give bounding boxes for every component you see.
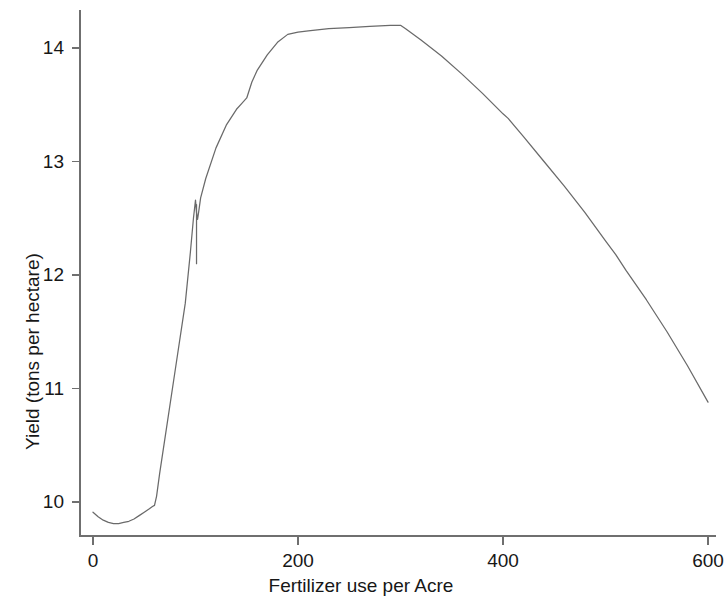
axis-lines [80,10,716,536]
y-tick-label: 10 [18,491,64,513]
y-axis-title: Yield (tons per hectare) [22,253,44,450]
series-group [93,25,708,523]
x-axis-ticks [93,536,708,545]
y-tick-label: 13 [18,151,64,173]
x-tick-label: 200 [282,550,314,572]
y-tick-label: 14 [18,37,64,59]
line-series-yield [93,25,708,523]
x-tick-label: 600 [692,550,724,572]
axes-group [72,10,716,545]
x-axis-title: Fertilizer use per Acre [0,575,722,597]
x-tick-label: 400 [487,550,519,572]
x-tick-label: 0 [88,550,99,572]
y-axis-ticks [72,48,80,502]
